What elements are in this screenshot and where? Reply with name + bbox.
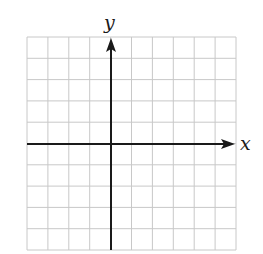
- y-axis-label: y: [103, 11, 115, 33]
- coordinate-plane: x y: [0, 0, 263, 254]
- x-axis-label: x: [240, 132, 251, 154]
